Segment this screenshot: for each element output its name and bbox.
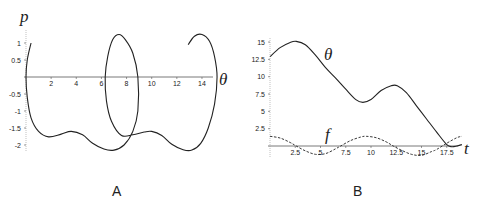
chart-b-x-tick-label: 10 [367,149,375,156]
chart-b-x-tick-label: 2.5 [290,149,300,156]
chart-a-x-ticks: 2468101214 [49,77,206,87]
chart-b-y-ticks: 1512.5107.552.5 [251,39,270,133]
chart-a-y-tick-label: 0.5 [11,57,21,64]
chart-b-x-label: t [464,139,470,158]
chart-a-x-tick-label: 4 [74,80,78,87]
chart-a: 2468101214 10.5-0.5-1-1.5-2 θ p A [9,7,227,199]
chart-b-x-tick-label: 7.5 [341,149,351,156]
chart-a-x-tick-label: 12 [173,80,181,87]
chart-a-x-tick-label: 2 [49,80,53,87]
chart-a-x-tick-label: 6 [99,80,103,87]
chart-b-f-annotation: f [325,125,332,144]
panel-label-a: A [112,183,122,199]
chart-b-y-tick-label: 7.5 [255,91,265,98]
chart-a-y-tick-label: 1 [17,40,21,47]
chart-b-y-tick-label: 10 [257,73,265,80]
chart-b-y-tick-label: 15 [257,39,265,46]
chart-b-theta-line [270,41,462,147]
chart-b-y-tick-label: 12.5 [251,56,265,63]
chart-a-y-ticks: 10.5-0.5-1-1.5-2 [9,40,26,149]
panel-label-b: B [353,183,362,199]
chart-b-y-tick-label: 5 [261,108,265,115]
chart-a-y-tick-label: -2 [15,142,21,149]
chart-a-y-tick-label: -1 [15,108,21,115]
chart-a-y-tick-label: -1.5 [9,125,21,132]
chart-a-x-tick-label: 14 [198,80,206,87]
chart-a-x-tick-label: 10 [148,80,156,87]
chart-a-trajectory-line [26,34,217,151]
chart-a-x-label: θ [219,70,227,89]
chart-b-y-tick-label: 2.5 [255,125,265,132]
chart-b: 2.557.51012.51517.5 1512.5107.552.5 t θ … [251,38,470,199]
chart-b-x-tick-label: 17.5 [440,149,454,156]
chart-a-y-label: p [19,7,29,26]
chart-a-y-tick-label: -0.5 [9,91,21,98]
chart-b-theta-annotation: θ [324,45,332,64]
chart-a-x-tick-label: 8 [125,80,129,87]
figure: 2468101214 10.5-0.5-1-1.5-2 θ p A 2.557.… [0,0,482,211]
